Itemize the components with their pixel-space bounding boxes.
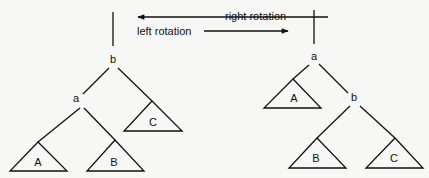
tree-edge	[38, 108, 80, 142]
node-b: b	[110, 53, 116, 65]
left-rotation-label: left rotation	[137, 25, 191, 37]
subtree-label-a: A	[290, 92, 298, 104]
tree-edge	[319, 64, 348, 93]
rotation-arrows: right rotation left rotation	[137, 10, 328, 37]
subtree-label-c: C	[149, 116, 157, 128]
tree-edge	[84, 108, 115, 140]
right-tree: abABC	[264, 10, 423, 168]
node-b: b	[351, 91, 357, 103]
tree-edge	[118, 68, 152, 101]
subtree-label-c: C	[390, 152, 398, 164]
node-a: a	[73, 92, 80, 104]
tree-edge	[317, 106, 350, 138]
subtree-label-a: A	[34, 156, 42, 168]
subtree-label-b: B	[312, 152, 319, 164]
tree-rotation-diagram: right rotation left rotation baCAB abABC	[0, 0, 429, 178]
node-a: a	[311, 50, 318, 62]
tree-edge	[293, 65, 309, 79]
subtree-label-b: B	[110, 156, 117, 168]
tree-edge	[83, 68, 109, 94]
tree-edge	[360, 106, 395, 138]
right-rotation-label: right rotation	[225, 10, 286, 22]
